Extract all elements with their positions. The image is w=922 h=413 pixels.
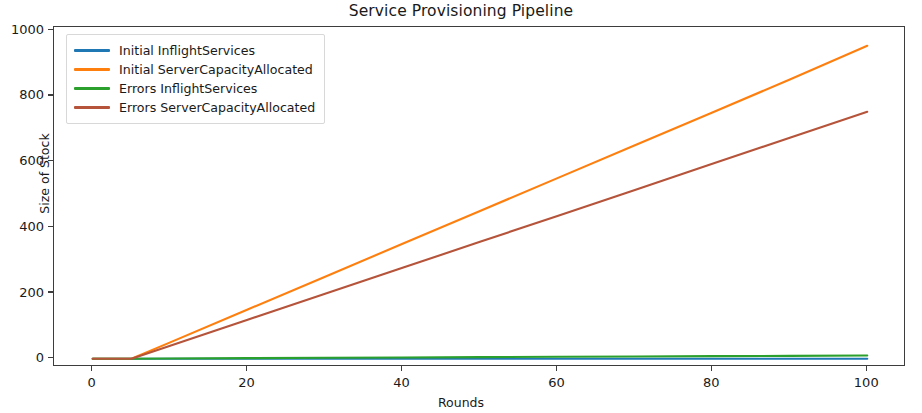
x-axis-label: Rounds (0, 395, 922, 410)
x-tick-label: 20 (217, 376, 277, 389)
legend-label: Initial InflightServices (119, 44, 255, 57)
legend-item[interactable]: Initial InflightServices (74, 41, 315, 60)
page-title: Service Provisioning Pipeline (0, 2, 922, 20)
y-axis-label: Size of Stock (37, 104, 52, 244)
legend-label: Errors InflightServices (119, 82, 257, 95)
legend: Initial InflightServicesInitial ServerCa… (66, 34, 325, 124)
legend-label: Errors ServerCapacityAllocated (119, 101, 315, 114)
y-tick-label: 800 (0, 88, 44, 101)
plot-area: Initial InflightServicesInitial ServerCa… (53, 26, 905, 366)
y-tick-label: 200 (0, 286, 44, 299)
x-tick-label: 80 (681, 376, 741, 389)
legend-color-swatch (74, 106, 110, 108)
legend-color-swatch (74, 49, 110, 51)
figure-canvas: Service Provisioning Pipeline Initial In… (0, 0, 922, 413)
y-tick-label: 1000 (0, 23, 44, 36)
x-tick-label: 100 (836, 376, 896, 389)
y-tick-label: 0 (0, 351, 44, 364)
legend-label: Initial ServerCapacityAllocated (119, 63, 313, 76)
series-line (93, 112, 868, 359)
legend-item[interactable]: Errors InflightServices (74, 79, 315, 98)
legend-color-swatch (74, 87, 110, 89)
x-tick-label: 0 (62, 376, 122, 389)
x-tick-label: 60 (526, 376, 586, 389)
x-tick-label: 40 (372, 376, 432, 389)
legend-item[interactable]: Errors ServerCapacityAllocated (74, 98, 315, 117)
legend-item[interactable]: Initial ServerCapacityAllocated (74, 60, 315, 79)
legend-color-swatch (74, 68, 110, 70)
